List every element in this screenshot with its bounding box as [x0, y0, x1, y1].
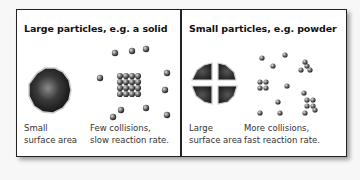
particle: [275, 99, 280, 104]
particle: [164, 70, 170, 76]
particle: [301, 90, 306, 95]
particle: [304, 97, 309, 102]
particle: [263, 79, 268, 84]
particle-lattice: [117, 73, 141, 97]
particle: [135, 91, 141, 97]
particle: [135, 73, 141, 79]
particle: [135, 85, 141, 91]
particle: [263, 85, 268, 90]
particle: [143, 46, 149, 52]
particle: [270, 63, 275, 68]
particle: [117, 91, 123, 97]
particle: [257, 85, 262, 90]
particle: [117, 85, 123, 91]
particle: [123, 73, 129, 79]
diagram-frame: Large particles, e.g. a solid Small: [16, 9, 347, 157]
particle: [257, 79, 262, 84]
particle: [259, 55, 264, 60]
particle: [312, 107, 317, 112]
particle: [277, 110, 282, 115]
particle: [164, 112, 170, 118]
particle: [97, 75, 103, 81]
particle: [310, 97, 315, 102]
particle: [118, 107, 124, 113]
particle: [302, 59, 307, 64]
particle: [135, 79, 141, 85]
particle: [302, 110, 307, 115]
broken-solid-pieces: [192, 63, 237, 104]
particle: [143, 105, 149, 111]
particle: [282, 52, 287, 57]
particle: [123, 85, 129, 91]
particle: [117, 79, 123, 85]
panel-large-particles: Large particles, e.g. a solid Small: [17, 10, 180, 156]
particle: [129, 73, 135, 79]
particle: [162, 87, 168, 93]
particle: [129, 91, 135, 97]
surface-area-caption: Small surface area: [24, 122, 77, 146]
particle: [123, 79, 129, 85]
particle: [304, 103, 309, 108]
particle: [123, 91, 129, 97]
particle: [129, 85, 135, 91]
panel-small-particles: Small particles, e.g. powder: [182, 10, 346, 156]
particle: [298, 67, 303, 72]
particle: [110, 114, 116, 120]
particle: [112, 50, 118, 56]
particle: [257, 110, 262, 115]
particle: [307, 67, 312, 72]
powder-particles: [257, 52, 317, 115]
reaction-rate-caption: More collisions, fast reaction rate.: [244, 122, 320, 146]
particle: [284, 83, 289, 88]
particle: [129, 48, 135, 54]
solid-lump: [29, 68, 71, 113]
reaction-rate-caption: Few collisions, slow reaction rate.: [90, 122, 169, 146]
surface-area-caption: Large surface area: [189, 122, 242, 146]
particle: [117, 73, 123, 79]
particle: [129, 79, 135, 85]
